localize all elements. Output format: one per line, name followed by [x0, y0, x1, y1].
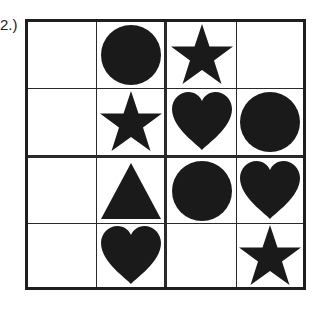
grid-cell: [28, 224, 96, 288]
grid-cell: [97, 224, 164, 288]
shape-grid: [25, 19, 306, 290]
grid-cell: [237, 22, 303, 88]
grid-cell: [237, 224, 303, 288]
star-icon: [238, 224, 302, 288]
grid-cell: [167, 89, 236, 155]
heart-icon: [170, 90, 234, 154]
star-icon: [99, 90, 163, 154]
heart-icon: [99, 224, 163, 288]
circle-icon: [170, 159, 234, 223]
grid-cell: [237, 89, 303, 155]
triangle-icon: [99, 159, 163, 223]
heart-icon: [238, 159, 302, 223]
grid-cell: [167, 22, 236, 88]
circle-icon: [238, 90, 302, 154]
grid-cell: [28, 158, 96, 223]
grid-cell: [97, 89, 164, 155]
grid-cell: [167, 158, 236, 223]
grid-cell: [28, 89, 96, 155]
grid-cell: [28, 22, 96, 88]
grid-cell: [97, 22, 164, 88]
grid-cell: [97, 158, 164, 223]
circle-icon: [99, 23, 163, 87]
grid-cell: [167, 224, 236, 288]
problem-number: 2.): [0, 16, 18, 33]
grid-cell: [237, 158, 303, 223]
star-icon: [170, 23, 234, 87]
